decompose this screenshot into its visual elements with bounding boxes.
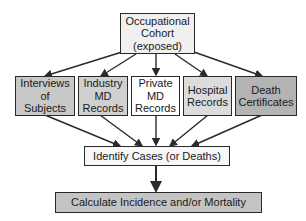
top-line-1: Occupational (125, 15, 189, 28)
calculate-incidence-box: Calculate Incidence and/or Mortality (55, 192, 262, 213)
interviews-line-1: Interviews (20, 77, 70, 90)
industry-line-3: Records (83, 102, 124, 115)
death-line-1: Death (238, 84, 293, 97)
interviews-line-2: of (20, 90, 70, 103)
industry-line-1: Industry (83, 77, 124, 90)
death-certificates-box: Death Certificates (235, 76, 297, 116)
calculate-incidence-label: Calculate Incidence and/or Mortality (71, 196, 246, 209)
occupational-cohort-box: Occupational Cohort (exposed) (120, 13, 195, 54)
industry-line-2: MD (83, 90, 124, 103)
private-line-2: MD (135, 90, 176, 103)
private-line-1: Private (135, 77, 176, 90)
identify-cases-label: Identify Cases (or Deaths) (93, 150, 221, 163)
private-md-records-box: Private MD Records (131, 76, 180, 116)
hospital-line-2: Records (187, 96, 228, 109)
interviews-line-3: Subjects (20, 102, 70, 115)
identify-cases-box: Identify Cases (or Deaths) (84, 146, 230, 166)
private-line-3: Records (135, 102, 176, 115)
top-line-3: (exposed) (125, 40, 189, 53)
hospital-records-box: Hospital Records (183, 76, 232, 116)
hospital-line-1: Hospital (187, 84, 228, 97)
industry-md-records-box: Industry MD Records (78, 76, 128, 116)
top-line-2: Cohort (125, 27, 189, 40)
death-line-2: Certificates (238, 96, 293, 109)
interviews-of-subjects-box: Interviews of Subjects (15, 76, 75, 116)
